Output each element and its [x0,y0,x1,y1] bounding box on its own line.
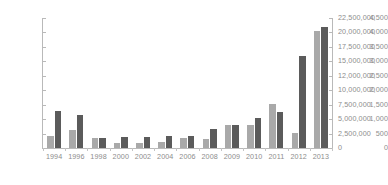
bar-light [136,143,143,148]
bar-group [87,18,109,148]
bar-dark [188,136,195,148]
bar-group [288,18,310,148]
x-axis-line [42,148,333,149]
x-axis-tick-mark [243,148,244,151]
x-axis-tick-label: 1994 [43,152,65,161]
x-axis-tick-mark [65,148,66,151]
y-axis-right-tick-label: 15,000,000 [338,57,375,65]
bar-dark [55,111,62,148]
bar-group [43,18,65,148]
x-axis-tick-label: 2010 [243,152,265,161]
x-axis-tick-label: 2009 [221,152,243,161]
y-axis-right-line [332,18,333,148]
x-axis-tick-mark [176,148,177,151]
bar-light [269,104,276,148]
y-axis-left-tick-label: 0 [352,144,388,152]
bar-group [65,18,87,148]
x-axis-tick-mark [288,148,289,151]
bar-group [110,18,132,148]
bar-group [243,18,265,148]
bar-light [225,125,232,148]
bar-light [47,136,54,148]
bar-dark [277,112,284,148]
x-axis-tick-mark [87,148,88,151]
bar-dark [321,27,328,148]
bar-light [114,143,121,148]
bar-light [69,130,76,148]
bar-group [265,18,287,148]
bar-chart: 05001,0001,5002,0002,5003,0003,5004,0004… [0,0,388,185]
x-axis-tick-mark [332,148,333,151]
bar-light [292,133,299,148]
bar-group [221,18,243,148]
bar-light [203,139,210,148]
x-axis-tick-mark [132,148,133,151]
x-axis-tick-label: 2008 [199,152,221,161]
x-axis-tick-label: 2000 [110,152,132,161]
x-axis-tick-mark [110,148,111,151]
bar-group [154,18,176,148]
x-axis-tick-label: 2002 [132,152,154,161]
y-axis-right-tick-label: 17,500,000 [338,43,375,51]
y-axis-right-tick-label: 22,500,000 [338,14,375,22]
bar-light [158,142,165,148]
y-axis-right-tick-label: 0 [338,144,342,152]
y-axis-right-tick-label: 10,000,000 [338,86,375,94]
bar-dark [77,115,84,148]
bar-dark [255,118,262,148]
x-axis-tick-label: 2004 [154,152,176,161]
x-axis-tick-mark [310,148,311,151]
bar-light [180,138,187,148]
x-axis-tick-mark [265,148,266,151]
bar-group [132,18,154,148]
y-axis-right-tick-label: 20,000,000 [338,28,375,36]
x-axis-tick-mark [154,148,155,151]
bar-dark [144,137,151,148]
x-axis-tick-mark [199,148,200,151]
bar-group [176,18,198,148]
x-axis-tick-label: 2013 [310,152,332,161]
x-axis-tick-label: 1998 [87,152,109,161]
x-axis-tick-mark [221,148,222,151]
bar-light [92,138,99,148]
bar-dark [299,56,306,148]
x-axis-tick-mark [43,148,44,151]
bar-group [310,18,332,148]
y-axis-right-tick-label: 5,000,000 [338,115,371,123]
y-axis-right-tick-label: 7,500,000 [338,101,371,109]
x-axis-tick-label: 1996 [65,152,87,161]
bar-group [199,18,221,148]
bar-dark [121,137,128,148]
y-axis-right-tick-label: 2,500,000 [338,130,371,138]
x-axis-tick-label: 2011 [265,152,287,161]
plot-area [43,18,332,148]
x-axis-tick-label: 2006 [176,152,198,161]
bar-light [247,125,254,148]
bar-dark [210,129,217,148]
x-axis-tick-label: 2012 [288,152,310,161]
bar-dark [99,138,106,148]
bar-light [314,31,321,148]
y-axis-right-tick-label: 12,000,000 [338,72,375,80]
bar-dark [166,136,173,148]
bar-dark [232,125,239,148]
